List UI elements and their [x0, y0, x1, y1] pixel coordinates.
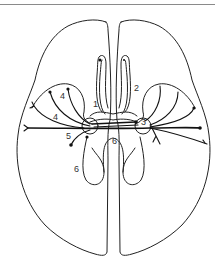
label-4b: 4 [53, 112, 58, 122]
label-1: 1 [93, 99, 98, 109]
label-layer: 1 2 3 4 4 5 6 6 [0, 0, 224, 268]
label-5: 5 [66, 131, 71, 141]
label-3: 3 [141, 117, 146, 127]
label-6b: 6 [74, 164, 79, 174]
label-4a: 4 [60, 91, 65, 101]
label-2: 2 [134, 83, 139, 93]
label-6a: 6 [112, 136, 117, 146]
